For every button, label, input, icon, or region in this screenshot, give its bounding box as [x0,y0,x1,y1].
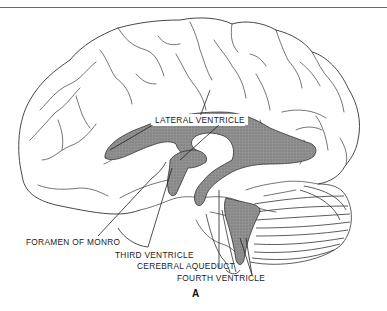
label-third-ventricle: THIRD VENTRICLE [115,251,194,259]
label-foramen-of-monro: FORAMEN OF MONRO [26,238,120,246]
label-lateral-ventricle: LATERAL VENTRICLE [152,115,248,125]
label-cerebral-aqueduct: CEREBRAL AQUEDUCT [137,262,235,270]
fourth-ventricle-shape [225,198,261,265]
leader-third-ventricle [148,168,172,247]
label-fourth-ventricle: FOURTH VENTRICLE [177,274,265,282]
ventricles [105,112,316,265]
lateral-ventricle-shape [105,112,316,206]
brain-ventricles-figure: LATERAL VENTRICLE FORAMEN OF MONRO THIRD… [0,0,387,311]
leader-foramen-of-monro [98,178,152,236]
panel-letter: A [192,288,199,299]
